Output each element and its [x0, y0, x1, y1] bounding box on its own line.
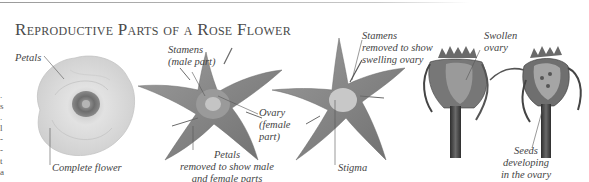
swollen-ovary-image [424, 46, 488, 158]
label-line: removed to show [362, 42, 433, 54]
label-line: Seeds [486, 145, 566, 157]
label-petals-removed: Petals removed to show male and female p… [162, 149, 292, 182]
label-line: (female [259, 119, 291, 131]
label-line: (male part) [168, 56, 216, 68]
seeds-developing-image [490, 46, 581, 158]
label-line: Stamens [168, 44, 216, 56]
label-complete-flower: Complete flower [52, 162, 122, 174]
label-petals: Petals [15, 52, 41, 64]
label-stamens-removed: Stamens removed to show swelling ovary [362, 30, 433, 66]
label-line: part) [259, 131, 291, 143]
stamens-removed-leader-line [352, 40, 362, 80]
label-line: in the ovary [486, 169, 566, 181]
label-ovary-female: Ovary (female part) [259, 107, 291, 143]
label-line: removed to show male [162, 161, 292, 173]
label-line: and female parts [162, 173, 292, 182]
label-line: Swollen [484, 30, 517, 42]
label-line: ovary [484, 42, 517, 54]
label-line: Petals [162, 149, 292, 161]
label-swollen-ovary: Swollen ovary [484, 30, 517, 54]
label-stamens-male: Stamens (male part) [168, 44, 216, 68]
label-line: swelling ovary [362, 54, 433, 66]
complete-flower-image [37, 56, 134, 156]
label-stigma: Stigma [338, 162, 367, 174]
label-line: Stamens [362, 30, 433, 42]
label-line: Ovary [259, 107, 291, 119]
label-seeds-developing: Seeds developing in the ovary [486, 145, 566, 181]
label-line: developing [486, 157, 566, 169]
